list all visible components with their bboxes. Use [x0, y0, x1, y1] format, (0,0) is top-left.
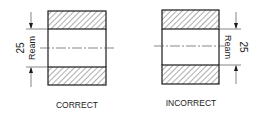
- correct-diagram: 25 Ream CORRECT: [15, 11, 114, 110]
- dimension-value: 25: [238, 41, 249, 53]
- dimension-note: Ream: [27, 36, 37, 60]
- incorrect-diagram: Ream 25 INCORRECT: [154, 10, 249, 108]
- arrowhead-down-icon: [29, 23, 33, 29]
- section-hatch-top: [48, 11, 106, 29]
- dimension-value: 25: [15, 42, 26, 54]
- arrowhead-up-icon: [234, 65, 238, 71]
- caption-correct: CORRECT: [56, 100, 98, 110]
- arrowhead-down-icon: [234, 23, 238, 29]
- caption-incorrect: INCORRECT: [166, 98, 217, 108]
- section-hatch-bottom: [48, 67, 106, 85]
- arrowhead-up-icon: [29, 67, 33, 73]
- section-hatch-top: [162, 10, 219, 29]
- dimension-note: Ream: [223, 35, 233, 59]
- section-hatch-bottom: [162, 65, 219, 84]
- reaming-dimension-diagram: 25 Ream CORRECT Ream 25 INCORRECT: [0, 0, 257, 117]
